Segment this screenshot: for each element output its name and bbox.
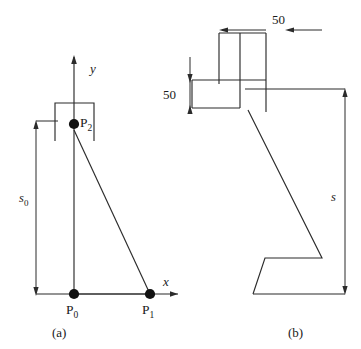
point-p0-letter: P (66, 302, 74, 317)
point-p2-letter: P (80, 115, 88, 130)
link-p2-p1 (74, 130, 150, 294)
figure-canvas (0, 0, 361, 349)
panel-a-graphics (33, 55, 178, 299)
dim-horizontal-50-outer-arrowhead (285, 27, 294, 32)
x-axis-label: x (163, 275, 169, 288)
y-axis-label: y (90, 62, 96, 75)
dim-s-label: s (331, 191, 336, 204)
point-p1-dot (145, 289, 155, 299)
y-axis-arrowhead (71, 55, 77, 64)
figure-root: y x P2 P0 P1 s0 (a) 50 50 s (b) (0, 0, 361, 349)
point-p2-label: P2 (80, 116, 92, 133)
x-axis-arrowhead (170, 291, 178, 297)
dim-s0-subscript: 0 (24, 198, 29, 208)
dim-vertical-50-label: 50 (163, 88, 176, 101)
point-p0-subscript: 0 (74, 310, 79, 320)
caption-panel-b: (b) (288, 326, 303, 339)
point-p2-subscript: 2 (88, 123, 93, 133)
dim-s0-label: s0 (19, 192, 28, 208)
dim-horizontal-50-label: 50 (272, 13, 285, 26)
caption-panel-a: (a) (52, 326, 66, 339)
point-p2-dot (69, 119, 79, 129)
point-p0-label: P0 (66, 303, 78, 320)
dim-horizontal-50-arrowhead-left (219, 27, 228, 32)
point-p0-dot (69, 289, 79, 299)
s0-arrowhead-bottom (33, 287, 38, 296)
point-p1-letter: P (142, 302, 150, 317)
panel-b-graphics (187, 27, 347, 295)
point-p1-label: P1 (142, 303, 154, 320)
point-p1-subscript: 1 (150, 310, 155, 320)
zigzag-linkage-path (248, 110, 322, 294)
